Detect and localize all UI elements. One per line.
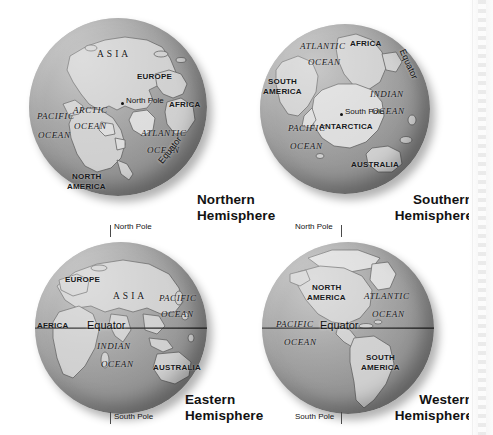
north-pole-dot — [121, 102, 124, 105]
globe-southern: AFRICA SOUTH AMERICA ANTARCTICA AUSTRALI… — [260, 24, 430, 194]
label-europe-e: EUROPE — [65, 276, 100, 284]
label-north: NORTH — [72, 173, 101, 181]
label-arctic: ARCTIC — [73, 106, 108, 115]
label-antarctica: ANTARCTICA — [319, 123, 373, 131]
south-pole-tick-eastern — [110, 412, 111, 424]
label-north-w: NORTH — [312, 284, 341, 292]
label-south-w: SOUTH — [366, 354, 395, 362]
label-europe: EUROPE — [137, 73, 172, 81]
label-australia-s: AUSTRALIA — [351, 161, 399, 169]
label-america-s: AMERICA — [263, 88, 302, 96]
label-america-w: AMERICA — [307, 294, 346, 302]
label-arctic-ocean: OCEAN — [74, 122, 107, 131]
label-indian-ocean-e: OCEAN — [101, 360, 134, 369]
label-pacific: PACIFIC — [37, 112, 75, 121]
label-pacific-e: PACIFIC — [159, 294, 197, 303]
equator-label-eastern: Equator — [87, 320, 126, 332]
panel-southern-hemisphere: AFRICA SOUTH AMERICA ANTARCTICA AUSTRALI… — [240, 0, 493, 220]
label-asia-e: ASIA — [113, 292, 147, 302]
globe-western: NORTH AMERICA SOUTH AMERICA ATLANTIC OCE… — [262, 242, 434, 414]
label-indian-s: INDIAN — [370, 90, 404, 99]
globe-northern: ASIA EUROPE AFRICA NORTH AMERICA ARCTIC … — [29, 18, 207, 196]
binding-holes — [478, 0, 486, 435]
north-pole-tick-eastern — [110, 225, 111, 237]
north-pole-label-eastern: North Pole — [114, 223, 152, 231]
caption-line1: Eastern — [185, 392, 235, 407]
north-pole-label: North Pole — [126, 97, 164, 105]
label-pacific-ocean-s: OCEAN — [290, 142, 323, 151]
label-africa: AFRICA — [169, 101, 200, 109]
globe-eastern: EUROPE ASIA AFRICA AUSTRALIA PACIFIC OCE… — [35, 242, 207, 414]
panel-western-hemisphere: NORTH AMERICA SOUTH AMERICA ATLANTIC OCE… — [240, 220, 493, 435]
label-atlantic-ocean-w: OCEAN — [372, 310, 405, 319]
south-pole-label: South Pole — [345, 108, 384, 116]
binding-edge-line — [472, 0, 473, 435]
south-pole-label-western: South Pole — [295, 413, 334, 421]
label-pacific-ocean-e: OCEAN — [161, 310, 194, 319]
label-africa-e: AFRICA — [37, 322, 68, 330]
label-asia: ASIA — [97, 50, 131, 60]
label-pacific-w: PACIFIC — [276, 320, 314, 329]
south-pole-tick-western — [341, 412, 342, 424]
label-america2-w: AMERICA — [361, 364, 400, 372]
caption-line2: Hemisphere — [358, 408, 473, 424]
south-pole-label-eastern: South Pole — [114, 413, 153, 421]
panel-northern-hemisphere: ASIA EUROPE AFRICA NORTH AMERICA ARCTIC … — [0, 0, 250, 220]
north-pole-label-western: North Pole — [295, 223, 333, 231]
label-africa-s: AFRICA — [350, 40, 381, 48]
north-pole-tick-western — [341, 225, 342, 237]
label-indian-e: INDIAN — [97, 342, 131, 351]
label-atlantic-s: ATLANTIC — [300, 42, 345, 51]
equator-label-western: Equator — [320, 320, 359, 332]
caption-line1: Southern — [413, 192, 473, 207]
label-pacific-ocean-w: OCEAN — [284, 338, 317, 347]
caption-line1: Western — [419, 392, 473, 407]
page-binding-strip — [469, 0, 493, 435]
caption-western-hemisphere: Western Hemisphere — [358, 392, 473, 424]
panel-eastern-hemisphere: EUROPE ASIA AFRICA AUSTRALIA PACIFIC OCE… — [0, 220, 250, 435]
label-atlantic-w: ATLANTIC — [364, 292, 409, 301]
diagram-page: ASIA EUROPE AFRICA NORTH AMERICA ARCTIC … — [0, 0, 493, 435]
label-america: AMERICA — [67, 183, 106, 191]
south-pole-dot — [340, 113, 343, 116]
label-pacific-ocean: OCEAN — [38, 131, 71, 140]
label-pacific-s: PACIFIC — [288, 124, 326, 133]
label-south-s: SOUTH — [268, 78, 297, 86]
label-australia-e: AUSTRALIA — [153, 364, 201, 372]
label-atlantic-ocean-s: OCEAN — [308, 58, 341, 67]
